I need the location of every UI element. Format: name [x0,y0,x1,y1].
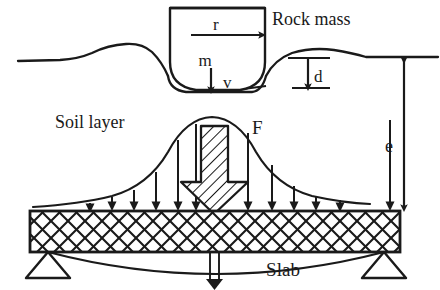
depth-label: d [314,67,323,86]
radius-label: r [213,15,219,34]
penetration-depth-dimension: d [288,58,330,88]
deflection-curve [48,252,384,274]
soil-layer-label: Soil layer [55,112,125,132]
rock-mass-label: Rock mass [272,9,351,29]
impact-force-arrow [181,126,248,214]
rockfall-impact-diagram: r m v Rock mass d e Soil layer [0,0,440,290]
impact-force-label: F [252,117,263,138]
deflection-arrow [206,252,223,290]
cushion-thickness-dimension: e [385,60,404,208]
slab-label: Slab [266,259,300,280]
slab-body [30,211,400,252]
mass-label: m [198,51,211,70]
figure-canvas: r m v Rock mass d e Soil layer [0,0,440,290]
pressure-load-arrows [90,120,390,208]
velocity-label: v [223,73,232,92]
